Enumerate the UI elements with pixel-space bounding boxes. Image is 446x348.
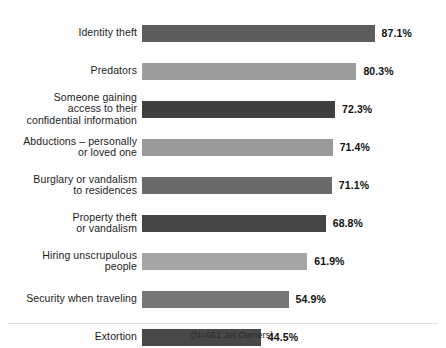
category-label: Abductions – personally or loved one: [0, 136, 142, 159]
bar-identity-theft: [142, 25, 375, 42]
bar-row: Security when traveling 54.9%: [0, 280, 446, 318]
bar-value-label: 68.8%: [333, 217, 363, 229]
bar-row: Identity theft 87.1%: [0, 14, 446, 52]
bar-row: Property theft or vandalism 68.8%: [0, 204, 446, 242]
category-label: Identity theft: [0, 27, 142, 39]
bar-row: Predators 80.3%: [0, 52, 446, 90]
bar-value-label: 71.4%: [340, 141, 370, 153]
bar-abductions: [142, 139, 333, 156]
bar-security-when-traveling: [142, 291, 289, 308]
bar-track: 80.3%: [142, 52, 446, 90]
bar-burglary-vandalism: [142, 177, 332, 194]
bar-row: Abductions – personally or loved one 71.…: [0, 128, 446, 166]
bar-value-label: 72.3%: [342, 103, 372, 115]
bar-track: 61.9%: [142, 242, 446, 280]
bar-value-label: 87.1%: [382, 27, 412, 39]
category-label: Security when traveling: [0, 293, 142, 305]
chart-footnote: (N=661 Jet Owners): [0, 330, 446, 340]
bar-property-theft: [142, 215, 326, 232]
bar-value-label: 61.9%: [314, 255, 344, 267]
bar-track: 71.4%: [142, 128, 446, 166]
bar-hiring-unscrupulous-people: [142, 253, 307, 270]
bar-value-label: 80.3%: [363, 65, 393, 77]
bar-predators: [142, 63, 356, 80]
bar-row: Someone gaining access to their confiden…: [0, 90, 446, 128]
category-label: Predators: [0, 65, 142, 77]
bar-row: Hiring unscrupulous people 61.9%: [0, 242, 446, 280]
bar-track: 87.1%: [142, 14, 446, 52]
bar-track: 54.9%: [142, 280, 446, 318]
bar-value-label: 71.1%: [339, 179, 369, 191]
bar-track: 71.1%: [142, 166, 446, 204]
category-label: Someone gaining access to their confiden…: [0, 92, 142, 127]
category-label: Hiring unscrupulous people: [0, 250, 142, 273]
bar-confidential-information: [142, 101, 335, 118]
bar-value-label: 54.9%: [296, 293, 326, 305]
category-label: Burglary or vandalism to residences: [0, 174, 142, 197]
bar-row: Burglary or vandalism to residences 71.1…: [0, 166, 446, 204]
bar-track: 68.8%: [142, 204, 446, 242]
category-label: Property theft or vandalism: [0, 212, 142, 235]
chart-plot-area: Identity theft 87.1% Predators 80.3% Som…: [0, 14, 446, 348]
chart-baseline-rule: [8, 323, 438, 324]
bar-track: 72.3%: [142, 90, 446, 128]
bar-chart: Identity theft 87.1% Predators 80.3% Som…: [0, 0, 446, 348]
